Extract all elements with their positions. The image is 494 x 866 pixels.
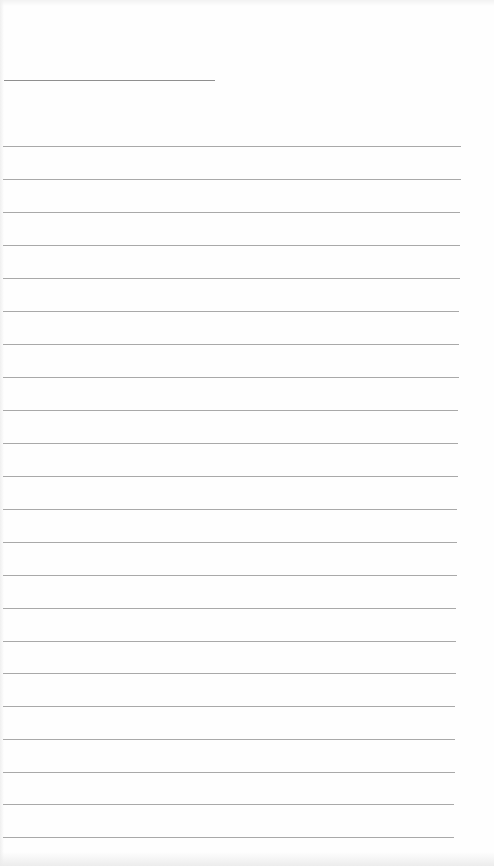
ruled-line xyxy=(3,837,454,838)
ruled-line xyxy=(3,739,455,740)
ruled-line xyxy=(3,278,460,279)
ruled-line xyxy=(3,179,461,180)
ruled-line xyxy=(3,344,459,345)
ruled-line xyxy=(3,311,459,312)
ruled-line xyxy=(3,212,460,213)
ruled-line xyxy=(3,804,454,805)
title-line xyxy=(4,80,215,81)
ruled-line xyxy=(3,706,455,707)
ruled-line xyxy=(3,377,459,378)
ruled-line xyxy=(3,641,456,642)
ruled-line xyxy=(3,245,460,246)
ruled-line xyxy=(3,410,458,411)
ruled-line xyxy=(3,673,456,674)
ruled-line xyxy=(3,575,457,576)
ruled-line xyxy=(3,509,457,510)
ruled-paper-sheet xyxy=(0,0,494,866)
ruled-line xyxy=(3,608,456,609)
ruled-line xyxy=(3,542,457,543)
ruled-line xyxy=(3,476,458,477)
bottom-edge-shadow xyxy=(0,852,494,866)
ruled-line xyxy=(3,146,461,147)
left-edge-shadow xyxy=(0,0,4,866)
ruled-line xyxy=(3,772,455,773)
top-edge-shadow xyxy=(0,0,494,6)
ruled-line xyxy=(3,443,458,444)
